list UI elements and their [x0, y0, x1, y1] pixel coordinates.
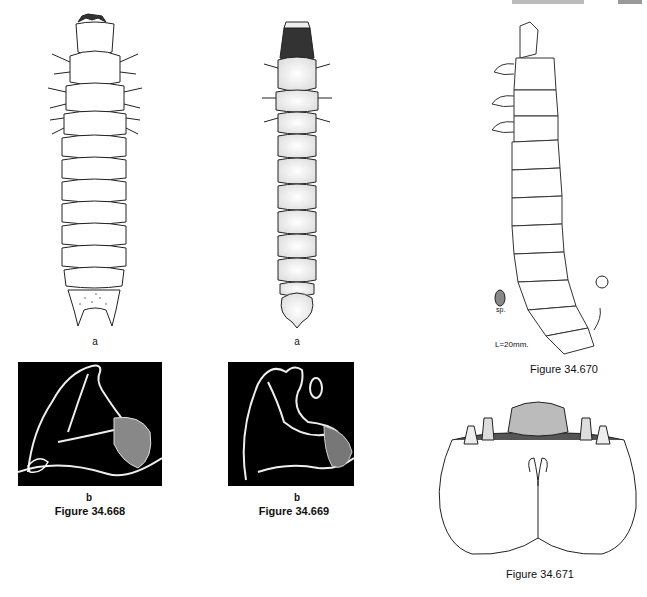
figure-34-668b-sem-micrograph	[18, 362, 162, 486]
running-header	[500, 0, 647, 6]
scale-label: L=20mm.	[495, 340, 529, 349]
figure-34-670-larva-lateral	[490, 18, 620, 358]
caption-figure-34-670: Figure 34.670	[514, 363, 614, 375]
panel-label-34-669a: a	[287, 336, 307, 347]
caption-figure-34-669: Figure 34.669	[244, 505, 344, 517]
figure-34-669a-larva-drawing	[262, 18, 332, 332]
figure-34-668a-larva-drawing	[30, 10, 160, 330]
caption-figure-34-668: Figure 34.668	[40, 505, 140, 517]
figure-34-671-head-capsule	[432, 396, 642, 564]
caption-figure-34-671: Figure 34.671	[490, 568, 590, 580]
spiracle-label: sp.	[496, 306, 505, 313]
panel-label-34-668a: a	[85, 336, 105, 347]
panel-label-34-669b: b	[287, 492, 307, 503]
panel-label-34-668b: b	[79, 492, 99, 503]
figure-34-669b-sem-micrograph	[228, 362, 354, 486]
